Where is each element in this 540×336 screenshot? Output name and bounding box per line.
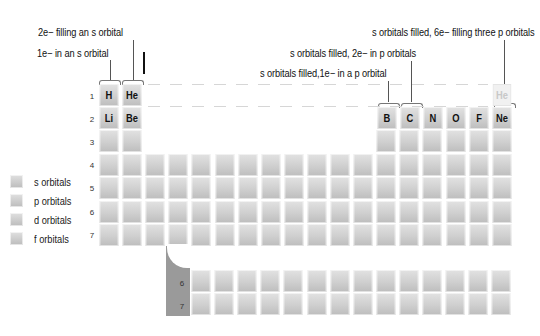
element-O: O <box>447 107 466 129</box>
element-cell <box>423 177 442 199</box>
element-cell <box>123 154 142 176</box>
element-cell <box>308 177 327 199</box>
element-cell <box>100 224 119 246</box>
element-Li: Li <box>100 107 119 129</box>
element-cell <box>215 154 234 176</box>
element-cell <box>123 177 142 199</box>
legend-swatch <box>10 232 23 245</box>
f-block-cell <box>192 270 211 292</box>
period-number: 4 <box>87 161 97 170</box>
element-Be: Be <box>123 107 142 129</box>
f-block-cell <box>469 293 488 315</box>
f-block-cell <box>307 270 326 292</box>
f-block-cell <box>400 293 419 315</box>
element-cell <box>215 201 234 223</box>
element-B: B <box>378 107 397 129</box>
element-cell <box>469 130 488 152</box>
annotation-c: s orbitals filled, 2e− in p orbitals <box>290 47 416 59</box>
f-period-number: 6 <box>177 279 187 288</box>
leader-line-c <box>411 61 412 102</box>
element-cell <box>446 177 465 199</box>
element-cell <box>100 154 119 176</box>
element-cell <box>400 154 419 176</box>
element-cell <box>331 154 350 176</box>
element-cell <box>146 177 165 199</box>
element-cell <box>123 130 142 152</box>
element-cell <box>423 154 442 176</box>
element-cell <box>192 177 211 199</box>
f-block-cell <box>284 293 303 315</box>
f-block-cell <box>423 293 442 315</box>
f-block-cell <box>284 270 303 292</box>
element-cell <box>261 201 280 223</box>
element-cell <box>308 224 327 246</box>
element-cell <box>238 154 257 176</box>
legend-label: s orbitals <box>34 176 71 188</box>
legend-f-orbitals: f orbitals <box>10 232 74 245</box>
f-block-cell <box>376 293 395 315</box>
f-block-cell <box>261 293 280 315</box>
f-block-cell <box>330 270 349 292</box>
element-cell <box>146 154 165 176</box>
leader-line-h <box>110 60 111 80</box>
leader-line-he <box>133 40 134 80</box>
f-block-cell <box>492 293 511 315</box>
element-cell <box>100 201 119 223</box>
element-cell <box>238 201 257 223</box>
element-cell <box>331 177 350 199</box>
f-block-cell <box>469 270 488 292</box>
element-cell <box>400 224 419 246</box>
element-cell <box>423 224 442 246</box>
element-cell <box>446 154 465 176</box>
element-cell <box>469 154 488 176</box>
element-cell <box>469 177 488 199</box>
element-cell <box>377 154 396 176</box>
legend-d-orbitals: d orbitals <box>10 213 77 226</box>
legend-swatch <box>10 213 23 226</box>
element-cell <box>446 130 465 152</box>
element-N: N <box>424 107 443 129</box>
element-cell <box>492 201 511 223</box>
element-cell <box>492 154 511 176</box>
element-cell <box>100 130 119 152</box>
element-cell <box>354 177 373 199</box>
legend-label: p orbitals <box>34 195 71 207</box>
f-block-cell <box>238 293 257 315</box>
element-cell <box>469 224 488 246</box>
element-cell <box>377 224 396 246</box>
element-cell <box>377 177 396 199</box>
element-cell <box>469 201 488 223</box>
element-He-ghost: He <box>493 84 512 106</box>
element-cell <box>146 201 165 223</box>
element-cell <box>169 154 188 176</box>
f-block-cell <box>330 293 349 315</box>
annotation-ne: s orbitals filled, 6e− filling three p o… <box>372 26 535 38</box>
element-H: H <box>100 84 119 106</box>
element-C: C <box>401 107 420 129</box>
f-block-cell <box>446 293 465 315</box>
annotation-he: 2e− filling an s orbital <box>38 26 123 38</box>
f-block-cell <box>376 270 395 292</box>
element-cell <box>261 177 280 199</box>
legend-swatch <box>10 175 23 188</box>
f-period-number: 7 <box>177 302 187 311</box>
element-cell <box>284 224 303 246</box>
element-cell <box>308 154 327 176</box>
element-cell <box>284 154 303 176</box>
f-block-cell <box>492 270 511 292</box>
f-block-cell <box>446 270 465 292</box>
element-cell <box>238 224 257 246</box>
element-F: F <box>470 107 489 129</box>
element-cell <box>423 130 442 152</box>
element-cell <box>331 224 350 246</box>
period-number: 5 <box>87 184 97 193</box>
element-cell <box>492 130 511 152</box>
f-block-cell <box>307 293 326 315</box>
f-block-cell <box>423 270 442 292</box>
f-block-cell <box>215 293 234 315</box>
element-cell <box>146 224 165 246</box>
guide-dash-row1 <box>148 84 488 85</box>
element-cell <box>377 130 396 152</box>
element-cell <box>192 224 211 246</box>
element-cell <box>354 201 373 223</box>
